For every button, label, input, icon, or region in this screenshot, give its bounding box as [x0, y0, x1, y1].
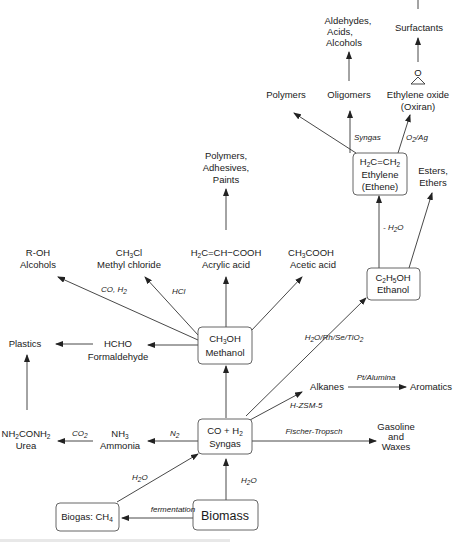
node-biomass: Biomass: [201, 509, 249, 523]
biomass-conversion-diagram: Biomass Biogas: CH4 CO + H2 Syngas CH3OH…: [0, 0, 458, 542]
node-syngas-label: Syngas: [209, 438, 241, 449]
node-methanol-box: [198, 327, 252, 364]
node-ethylene-oxide-label: Ethylene oxide: [387, 89, 449, 100]
node-alcohols-formula: R-OH: [26, 247, 50, 258]
node-urea-formula: NH2CONH2: [2, 428, 51, 440]
cond-n2: N2: [170, 429, 180, 439]
node-polymers-adhesives-2: Adhesives,: [203, 162, 249, 173]
node-oligomers: Oligomers: [327, 89, 371, 100]
node-aldehydes-3: Alcohols: [326, 37, 362, 48]
node-alkanes: Alkanes: [310, 381, 344, 392]
edge-biogas-syngas: [117, 454, 198, 502]
cond-hcl: HCl: [172, 287, 186, 296]
cond-biogas-h2o: H2O: [132, 473, 148, 483]
edge-methanol-acetic: [251, 277, 302, 331]
cond-hzsm5: H-ZSM-5: [290, 401, 323, 410]
node-surfactants: Surfactants: [395, 22, 443, 33]
cond-dehydration: - H2O: [383, 223, 404, 233]
cond-biomass-h2o: H2O: [241, 476, 257, 486]
cond-pt-alumina: Pt/Alumina: [357, 373, 396, 382]
cond-fischer-tropsch: Fischer-Tropsch: [285, 427, 343, 436]
node-formaldehyde-formula: HCHO: [104, 338, 132, 349]
node-biogas: Biogas: CH4: [61, 511, 113, 523]
node-polymers: Polymers: [266, 89, 306, 100]
node-methylchloride-label: Methyl chloride: [97, 259, 161, 270]
cond-rh-se-tio2: H2O/Rh/Se/TiO2: [305, 333, 364, 343]
node-ammonia-label: Ammonia: [100, 440, 141, 451]
node-esters-1: Esters,: [418, 165, 448, 176]
node-syngas-formula: CO + H2: [207, 425, 243, 437]
node-aldehydes-2: Acids,: [327, 26, 353, 37]
svg-text:O: O: [414, 67, 421, 78]
cond-fermentation: fermentation: [151, 505, 196, 514]
node-ammonia-formula: NH3: [111, 428, 129, 440]
cond-o2-ag: O2/Ag: [406, 133, 428, 143]
cond-syngas-oligomers: Syngas: [354, 133, 381, 142]
node-ethylene-label2: (Ethene): [362, 181, 398, 192]
node-acrylic-label: Acrylic acid: [202, 259, 250, 270]
node-plastics: Plastics: [9, 338, 42, 349]
edge-ethylene-polymers: [294, 113, 356, 153]
node-acetic-formula: CH3COOH: [288, 247, 334, 259]
node-methanol-label: Methanol: [205, 347, 244, 358]
node-acrylic-formula: H2C=CH−COOH: [191, 247, 262, 259]
node-ethylene-oxide-label2: (Oxiran): [401, 101, 435, 112]
node-aromatics: Aromatics: [410, 381, 452, 392]
cond-co2: CO2: [72, 429, 88, 439]
edge-ethanol-esters: [409, 193, 432, 268]
node-methylchloride-formula: CH3Cl: [116, 247, 142, 259]
node-gasoline-3: Waxes: [382, 441, 411, 452]
node-acetic-label: Acetic acid: [290, 259, 336, 270]
node-formaldehyde-label: Formaldehyde: [88, 351, 149, 362]
node-esters-2: Ethers: [419, 177, 447, 188]
edge-syngas-ethanol: [246, 298, 366, 416]
node-ethanol-label: Ethanol: [377, 284, 409, 295]
oxiran-ring-icon: O: [411, 67, 425, 84]
edge-methanol-methylchloride: [145, 277, 198, 335]
node-urea-label: Urea: [16, 440, 37, 451]
node-polymers-adhesives-1: Polymers,: [205, 150, 247, 161]
cond-co-h2: CO, H2: [101, 285, 127, 295]
node-alcohols-label: Alcohols: [20, 259, 56, 270]
node-ethylene-label: Ethylene: [362, 169, 399, 180]
node-aldehydes-1: Aldehydes,: [324, 15, 371, 26]
node-ethylene-formula: H2C=CH2: [360, 156, 401, 168]
node-polymers-adhesives-3: Paints: [213, 174, 240, 185]
